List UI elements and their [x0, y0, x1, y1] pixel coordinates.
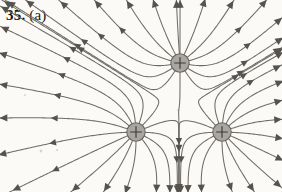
field-arrowhead [176, 145, 182, 152]
field-line [226, 79, 282, 124]
field-arrowhead [247, 183, 254, 191]
field-arrowhead [0, 150, 7, 157]
field-line [231, 119, 282, 129]
field-arrowhead [49, 139, 56, 145]
field-line [145, 132, 177, 192]
field-arrowhead [176, 138, 182, 145]
field-line [0, 136, 128, 192]
paper-speck [24, 94, 26, 96]
field-arrowhead [241, 60, 249, 66]
field-arrowhead [240, 73, 248, 79]
field-line [142, 139, 157, 192]
field-line [0, 23, 135, 123]
field-line [99, 141, 133, 192]
field-line [151, 0, 176, 55]
field-line [230, 136, 282, 164]
field-line [188, 34, 282, 77]
field-line [0, 2, 143, 123]
charge-bottom-left [127, 123, 145, 141]
field-line [63, 139, 130, 192]
field-arrowhead [246, 80, 254, 86]
field-line [0, 83, 129, 126]
paper-speck [40, 150, 43, 153]
field-arrowhead [274, 116, 282, 123]
field-arrowhead [198, 184, 205, 192]
field-line [229, 99, 282, 126]
field-arrowhead [226, 1, 233, 9]
field-line [176, 0, 179, 54]
field-arrowhead [152, 0, 159, 8]
field-arrowhead [104, 183, 111, 191]
field-line [145, 120, 179, 192]
field-arrowhead [274, 18, 282, 26]
field-arrowhead [184, 185, 191, 192]
field-arrowhead [54, 93, 61, 99]
charge-bottom-right [213, 123, 231, 141]
field-arrowhead [81, 39, 88, 46]
paper-speck [56, 149, 58, 151]
field-line [51, 0, 171, 66]
field-line [16, 0, 172, 77]
field-line [201, 139, 216, 192]
field-line [181, 132, 213, 192]
field-line [0, 118, 127, 129]
field-arrowhead [166, 185, 173, 192]
field-line [0, 0, 159, 125]
field-arrowhead [275, 134, 282, 141]
field-line [179, 121, 214, 192]
field-arrowhead [98, 33, 105, 40]
field-line [199, 45, 282, 125]
field-line [0, 0, 175, 90]
field-line [122, 0, 173, 57]
field-line [185, 43, 282, 89]
field-arrowhead [127, 1, 134, 9]
field-line-diagram [0, 0, 282, 192]
field-arrowhead [274, 99, 282, 106]
figure-root: 35. (a) [0, 0, 282, 192]
field-line [89, 0, 171, 61]
field-arrowhead [275, 38, 282, 45]
field-arrowhead [0, 82, 8, 89]
field-arrowhead [69, 47, 77, 53]
field-line [184, 0, 207, 55]
field-arrowhead [0, 114, 7, 121]
field-arrowhead [153, 184, 160, 192]
charge-top [171, 54, 189, 72]
field-arrowhead [51, 115, 58, 121]
field-arrowhead [243, 43, 250, 50]
field-arrowhead [226, 182, 233, 190]
field-line [231, 132, 282, 140]
field-arrowhead [26, 0, 34, 7]
